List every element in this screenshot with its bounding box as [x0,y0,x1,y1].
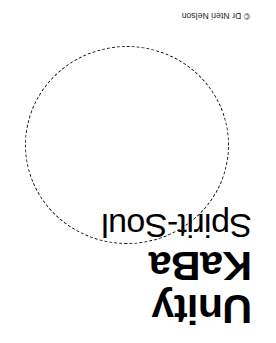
copyright-credit: © Dr Nteri Nelson [20,11,250,21]
title-line-kaba: KaBa [22,245,252,286]
title-line-spirit-soul: Spirit-Soul [22,209,252,243]
artwork-canvas: Unity KaBa Spirit-Soul © Dr Nteri Nelson [0,0,276,343]
title-block: Unity KaBa Spirit-Soul [22,209,252,329]
title-line-unity: Unity [22,288,252,329]
